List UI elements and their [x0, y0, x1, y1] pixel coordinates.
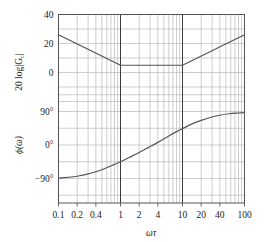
yaxis-mag-prefix: 20 log|G [14, 58, 24, 91]
x-axis-title: ωτ [146, 228, 157, 238]
svg-text:ϕ(ω): ϕ(ω) [14, 136, 25, 154]
x-tick-label: 2 [137, 210, 142, 220]
yaxis-phase-close: ) [14, 136, 25, 140]
x-tick-label: 1 [118, 210, 123, 220]
y-tick-label-phase: −90° [35, 174, 54, 184]
y-tick-label-phase: 90° [40, 107, 54, 117]
x-tick-label: 20 [196, 210, 206, 220]
x-tick-label: 4 [155, 210, 160, 220]
y-tick-label-magnitude: 20 [44, 39, 54, 49]
y-axis-title-magnitude: 20 log|Gc| [14, 53, 25, 91]
svg-text:20 log|Gc|: 20 log|Gc| [14, 53, 25, 91]
x-tick-label: 100 [237, 210, 252, 220]
x-tick-label: 0.1 [53, 210, 65, 220]
x-tick-label: 0.2 [71, 210, 83, 220]
bode-plot-figure: 0.10.20.4124102040100 40200 90°0°−90° ωτ… [0, 0, 266, 242]
x-tick-label: 10 [178, 210, 188, 220]
bode-plot-svg: 0.10.20.4124102040100 40200 90°0°−90° ωτ… [0, 0, 266, 242]
x-tick-label: 0.4 [90, 210, 102, 220]
y-axis-title-phase: ϕ(ω) [14, 136, 25, 154]
y-tick-label-magnitude: 0 [49, 68, 54, 78]
x-tick-label: 40 [215, 210, 225, 220]
y-tick-label-magnitude: 40 [44, 10, 54, 20]
y-tick-label-phase: 0° [45, 140, 54, 150]
yaxis-mag-tail: | [14, 53, 24, 55]
